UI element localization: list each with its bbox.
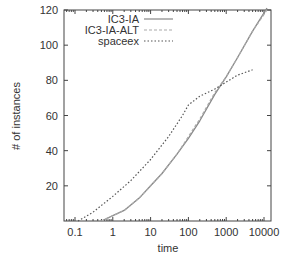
y-tick-label: 20 — [46, 180, 58, 192]
series-spaceex — [78, 70, 253, 221]
plot-border — [64, 10, 271, 221]
x-tick-label: 1000 — [214, 226, 238, 238]
y-tick-label: 40 — [46, 145, 58, 157]
x-axis-title: time — [158, 242, 179, 254]
y-tick-label: 80 — [46, 74, 58, 86]
x-tick-label: 0.1 — [67, 226, 82, 238]
y-tick-label: 120 — [40, 4, 58, 16]
x-tick-label: 10000 — [249, 226, 280, 238]
legend-label: spaceex — [98, 35, 139, 47]
legend: IC3-IAIC3-IA-ALTspaceex — [85, 13, 173, 47]
plot-frame — [64, 10, 271, 221]
y-axis-title: # of instances — [10, 82, 22, 150]
x-tick-label: 100 — [179, 226, 197, 238]
x-tick-label: 10 — [144, 226, 156, 238]
y-axis: 20406080100120 — [40, 4, 271, 192]
y-tick-label: 100 — [40, 39, 58, 51]
line-chart: 20406080100120 0.1110100100010000 IC3-IA… — [0, 0, 295, 264]
x-tick-label: 1 — [110, 226, 116, 238]
y-tick-label: 60 — [46, 110, 58, 122]
